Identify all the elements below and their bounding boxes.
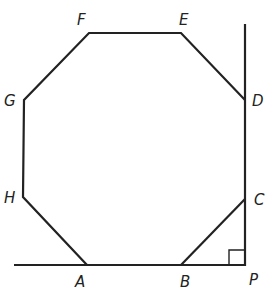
label-p: P [249, 271, 259, 289]
label-f: F [77, 11, 86, 29]
label-h: H [4, 189, 15, 207]
label-e: E [179, 11, 189, 29]
label-c: C [254, 191, 265, 209]
label-a: A [74, 273, 85, 291]
label-d: D [252, 92, 264, 110]
segment-bc [181, 199, 245, 265]
right-angle-marker [229, 250, 245, 265]
octagon-diagram: F E D G H C A B P [0, 0, 269, 293]
label-g: G [4, 92, 16, 110]
label-b: B [180, 273, 190, 291]
octagon-upper-path [23, 33, 245, 265]
